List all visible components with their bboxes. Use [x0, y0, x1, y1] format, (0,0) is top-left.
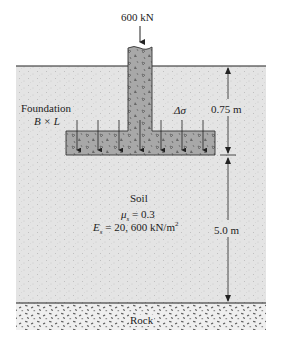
poisson-value: = 0.3 — [129, 208, 154, 220]
foundation-diagram — [0, 0, 281, 344]
soil-thickness-label: 5.0 m — [214, 224, 239, 237]
depth-dimension-label: 0.75 m — [211, 103, 242, 116]
soil-elastic-modulus: Es = 20, 600 kN/m2 — [93, 221, 178, 236]
stress-label: Δσ — [174, 105, 186, 116]
load-label: 600 kN — [121, 12, 154, 23]
rock-label: Rock — [129, 315, 154, 326]
modulus-symbol: E — [93, 221, 100, 233]
modulus-superscript: 2 — [175, 220, 179, 228]
modulus-value: = 20, 600 kN/m — [102, 221, 175, 233]
foundation-size-label: B × L — [34, 116, 60, 127]
foundation-label: Foundation — [21, 103, 71, 114]
soil-label: Soil — [130, 193, 148, 204]
